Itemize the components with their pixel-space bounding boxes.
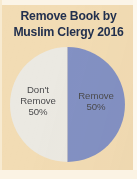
page-edge-right [133,0,137,179]
chart-title-line-2: Muslim Clergy 2016 [0,25,137,41]
page-edge-left [0,0,2,179]
pie-slice-label-remove: Remove 50% [70,90,122,112]
page-edge-bottom [0,170,137,179]
page-edge-top [0,0,137,5]
pie-slice-label-dont-remove: Don't Remove 50% [12,84,64,118]
pie-chart-figure: Remove Book by Muslim Clergy 2016 Don't … [0,0,137,179]
chart-title: Remove Book by Muslim Clergy 2016 [0,9,137,40]
chart-title-line-1: Remove Book by [0,9,137,25]
